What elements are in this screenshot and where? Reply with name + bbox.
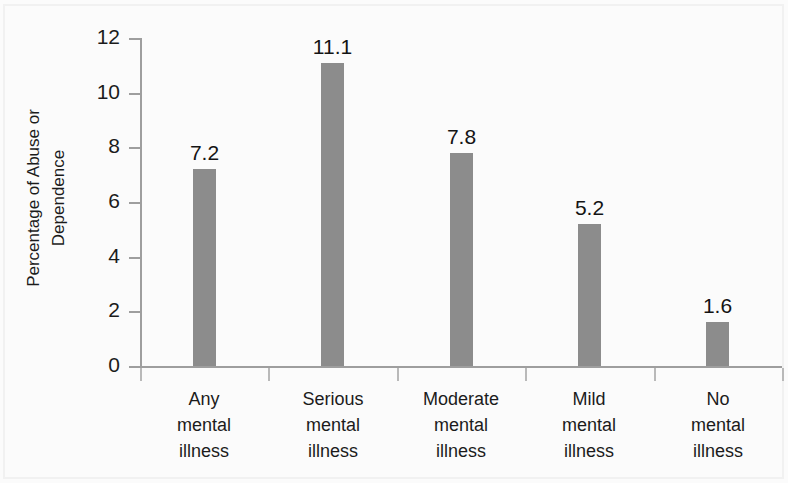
category-label: Seriousmentalillness <box>269 386 397 464</box>
category-label-line: illness <box>654 438 782 464</box>
bar[interactable]: 7.2 <box>193 169 216 366</box>
y-tick: 2 <box>129 311 140 313</box>
category-label-line: mental <box>397 412 525 438</box>
bar-value-label: 7.2 <box>190 141 219 165</box>
bar-value-label: 11.1 <box>313 35 352 59</box>
category-label-line: No <box>654 386 782 412</box>
y-axis-title-line-1: Percentage of Abuse or <box>21 109 46 287</box>
category-label-line: Any <box>140 386 268 412</box>
y-tick-label: 12 <box>97 25 120 49</box>
category-label-line: Mild <box>525 386 653 412</box>
y-tick-label: 0 <box>108 353 120 377</box>
bar-value-label: 7.8 <box>447 125 476 149</box>
bar-chart-figure: Percentage of Abuse or Dependence 024681… <box>0 0 788 483</box>
bar-value-label: 1.6 <box>703 294 732 318</box>
y-tick-label: 6 <box>108 189 120 213</box>
bar[interactable]: 1.6 <box>706 322 729 366</box>
x-tick <box>525 368 527 381</box>
x-axis-category-labels: AnymentalillnessSeriousmentalillnessMode… <box>140 386 782 466</box>
category-label-line: illness <box>140 438 268 464</box>
y-tick-label: 4 <box>108 244 120 268</box>
x-tick <box>397 368 399 381</box>
y-tick: 10 <box>129 93 140 95</box>
y-tick-label: 2 <box>108 298 120 322</box>
x-tick <box>140 368 142 381</box>
x-tick <box>654 368 656 381</box>
plot-area: 024681012 7.211.17.85.21.6 <box>140 30 782 368</box>
y-tick: 0 <box>129 366 140 368</box>
x-tick <box>782 368 784 381</box>
y-tick-label: 10 <box>97 80 120 104</box>
category-label-line: mental <box>140 412 268 438</box>
category-label-line: Moderate <box>397 386 525 412</box>
y-tick: 12 <box>129 38 140 40</box>
x-axis-line <box>140 366 782 368</box>
y-axis-line <box>140 38 142 368</box>
category-label: Anymentalillness <box>140 386 268 464</box>
bar[interactable]: 5.2 <box>578 224 601 366</box>
y-tick: 4 <box>129 257 140 259</box>
y-axis-title-line-2: Dependence <box>46 150 71 246</box>
category-label-line: illness <box>269 438 397 464</box>
category-label-line: Serious <box>269 386 397 412</box>
y-tick: 6 <box>129 202 140 204</box>
y-tick-label: 8 <box>108 134 120 158</box>
category-label-line: mental <box>269 412 397 438</box>
bar-value-label: 5.2 <box>575 196 604 220</box>
category-label: Nomentalillness <box>654 386 782 464</box>
category-label-line: illness <box>397 438 525 464</box>
y-tick: 8 <box>129 147 140 149</box>
bar[interactable]: 7.8 <box>450 153 473 366</box>
category-label-line: illness <box>525 438 653 464</box>
category-label: Mildmentalillness <box>525 386 653 464</box>
category-label-line: mental <box>525 412 653 438</box>
y-axis-title: Percentage of Abuse or Dependence <box>14 18 78 378</box>
category-label: Moderatementalillness <box>397 386 525 464</box>
bar[interactable]: 11.1 <box>321 63 344 366</box>
category-label-line: mental <box>654 412 782 438</box>
x-tick <box>268 368 270 381</box>
